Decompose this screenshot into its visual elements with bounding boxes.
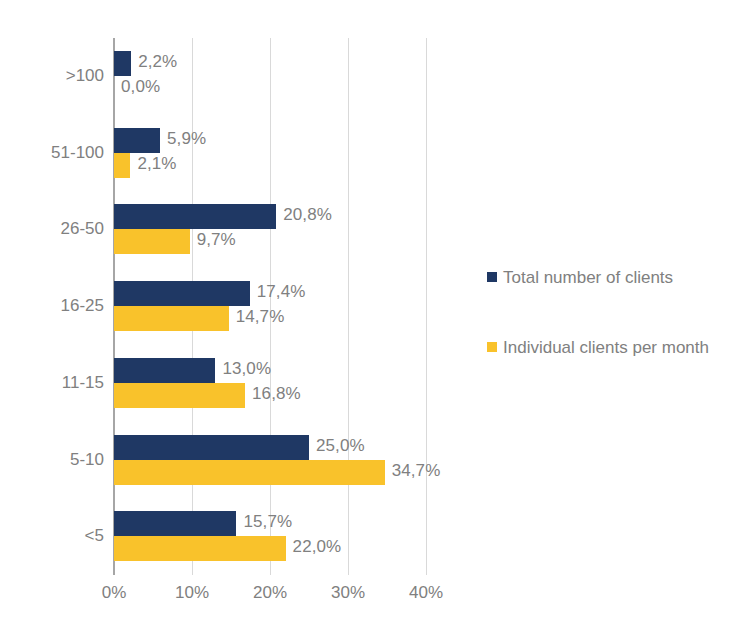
bar-series-1	[114, 383, 245, 408]
x-tick-label: 0%	[102, 583, 127, 603]
category-label: 26-50	[0, 191, 104, 268]
bar-series-0	[114, 511, 236, 536]
bar-series-0	[114, 435, 309, 460]
bar-value-label: 16,8%	[252, 384, 301, 404]
bar-value-label: 2,2%	[138, 52, 177, 72]
chart-legend: Total number of clientsIndividual client…	[487, 266, 727, 406]
bar-series-0	[114, 281, 250, 306]
category-label: 11-15	[0, 345, 104, 422]
bar-value-label: 34,7%	[392, 461, 441, 481]
bar-value-label: 22,0%	[293, 537, 342, 557]
category-label: <5	[0, 498, 104, 575]
legend-entry-1[interactable]: Individual clients per month	[487, 336, 727, 360]
bar-value-label: 20,8%	[283, 205, 332, 225]
x-tick-label: 40%	[409, 583, 443, 603]
bar-series-0	[114, 204, 276, 229]
bar-series-1	[114, 306, 229, 331]
legend-entry-0[interactable]: Total number of clients	[487, 266, 727, 290]
category-axis-labels: >10051-10026-5016-2511-155-10<5	[0, 38, 104, 575]
bar-value-label: 13,0%	[222, 359, 271, 379]
bar-value-label: 0,0%	[121, 77, 160, 97]
bar-value-label: 9,7%	[197, 230, 236, 250]
legend-label: Total number of clients	[503, 266, 713, 290]
bar-series-1	[114, 153, 130, 178]
bar-series-0	[114, 51, 131, 76]
x-tick-label: 10%	[175, 583, 209, 603]
legend-swatch-icon	[487, 272, 497, 282]
bar-series-1	[114, 460, 385, 485]
bar-chart: 2,2%0,0%5,9%2,1%20,8%9,7%17,4%14,7%13,0%…	[0, 0, 743, 644]
category-label: 5-10	[0, 422, 104, 499]
bar-series-1	[114, 536, 286, 561]
bar-value-label: 15,7%	[243, 512, 292, 532]
category-label: 51-100	[0, 115, 104, 192]
bar-group: 13,0%16,8%	[114, 345, 426, 422]
bar-value-label: 2,1%	[137, 154, 176, 174]
bar-series-1	[114, 229, 190, 254]
legend-swatch-icon	[487, 342, 497, 352]
gridline-40	[426, 38, 427, 575]
plot-area: 2,2%0,0%5,9%2,1%20,8%9,7%17,4%14,7%13,0%…	[114, 38, 426, 575]
category-label: 16-25	[0, 268, 104, 345]
category-label: >100	[0, 38, 104, 115]
bar-value-label: 5,9%	[167, 129, 206, 149]
bar-group: 20,8%9,7%	[114, 191, 426, 268]
bar-group: 5,9%2,1%	[114, 115, 426, 192]
bar-value-label: 25,0%	[316, 436, 365, 456]
bar-series-0	[114, 128, 160, 153]
bar-series-0	[114, 358, 215, 383]
legend-label: Individual clients per month	[503, 336, 713, 360]
bar-group: 25,0%34,7%	[114, 422, 426, 499]
bar-value-label: 17,4%	[257, 282, 306, 302]
value-axis-labels: 0%10%20%30%40%	[0, 583, 743, 613]
bar-group: 17,4%14,7%	[114, 268, 426, 345]
x-tick-label: 30%	[331, 583, 365, 603]
bar-group: 2,2%0,0%	[114, 38, 426, 115]
bar-group: 15,7%22,0%	[114, 498, 426, 575]
bar-value-label: 14,7%	[236, 307, 285, 327]
x-tick-label: 20%	[253, 583, 287, 603]
